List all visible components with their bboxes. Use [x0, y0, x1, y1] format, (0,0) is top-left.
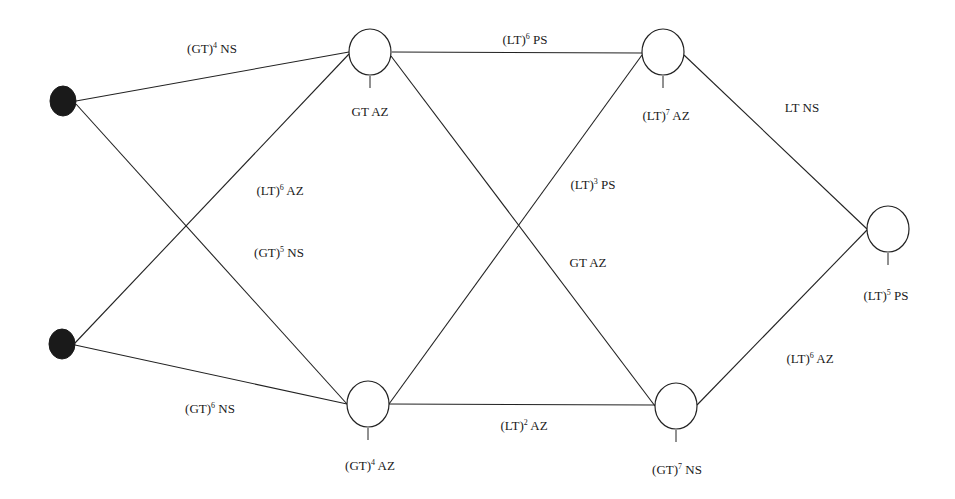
circle-node-icon	[347, 381, 389, 427]
edge-label: (LT)2 AZ	[500, 418, 547, 433]
edge-s1-n1	[76, 52, 349, 101]
circle-node-icon	[655, 383, 697, 429]
node-n1	[349, 29, 391, 88]
node-label: (LT)5 PS	[863, 288, 908, 303]
circle-node-icon	[867, 206, 909, 252]
edge-label: (LT)6 AZ	[786, 351, 833, 366]
edge-n1-n2	[392, 52, 642, 53]
label-layer: (GT)4 NS(GT)5 NS(LT)6 AZ(GT)6 NS(LT)6 PS…	[185, 32, 908, 477]
edge-s2-n4	[75, 345, 347, 404]
edge-label: (LT)6 PS	[502, 32, 547, 47]
edge-label: (GT)4 NS	[187, 41, 237, 56]
edge-n4-n2	[389, 55, 642, 404]
edge-label: (LT)6 AZ	[256, 183, 303, 198]
edge-label: (GT)6 NS	[185, 401, 235, 416]
circle-node-icon	[349, 29, 391, 75]
node-label: (GT)7 NS	[652, 462, 702, 477]
network-diagram: (GT)4 NS(GT)5 NS(LT)6 AZ(GT)6 NS(LT)6 PS…	[0, 0, 955, 499]
source-node-icon	[50, 86, 76, 116]
node-label: GT AZ	[352, 104, 389, 119]
edge-label: (GT)5 NS	[254, 245, 304, 260]
circle-node-icon	[642, 29, 684, 75]
node-n2	[642, 29, 684, 88]
edge-label: (LT)3 PS	[570, 177, 615, 192]
edge-s2-n1	[75, 54, 349, 343]
edge-n4-n5	[389, 404, 655, 405]
edge-n1-n5	[391, 56, 655, 406]
node-n3	[867, 206, 909, 265]
edge-n5-n3	[697, 230, 867, 405]
edge-layer	[75, 52, 867, 406]
edge-s1-n4	[76, 104, 347, 404]
node-n4	[347, 381, 389, 440]
node-n5	[655, 383, 697, 442]
source-node-icon	[49, 329, 75, 359]
node-label: (GT)4 AZ	[345, 458, 395, 473]
edge-label: LT NS	[785, 100, 819, 115]
node-label: (LT)7 AZ	[642, 108, 689, 123]
edge-n2-n3	[684, 55, 867, 229]
edge-label: GT AZ	[570, 255, 607, 270]
node-layer	[49, 29, 909, 442]
